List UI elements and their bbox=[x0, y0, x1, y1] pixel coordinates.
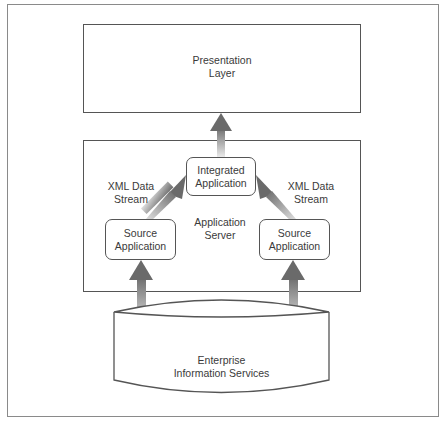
arrow-up-to-presentation-icon bbox=[210, 113, 232, 157]
xml-data-stream-right-label: XML Data Stream bbox=[280, 180, 342, 205]
xml-data-stream-left-label: XML Data Stream bbox=[100, 180, 162, 205]
source-application-right-box: Source Application bbox=[259, 219, 330, 260]
integrated-application-label: Integrated Application bbox=[195, 164, 246, 189]
source-application-right-label: Source Application bbox=[269, 227, 320, 252]
source-application-left-box: Source Application bbox=[105, 219, 176, 260]
integrated-application-box: Integrated Application bbox=[186, 157, 256, 196]
source-application-left-label: Source Application bbox=[115, 227, 166, 252]
enterprise-information-services-label: Enterprise Information Services bbox=[150, 354, 293, 379]
